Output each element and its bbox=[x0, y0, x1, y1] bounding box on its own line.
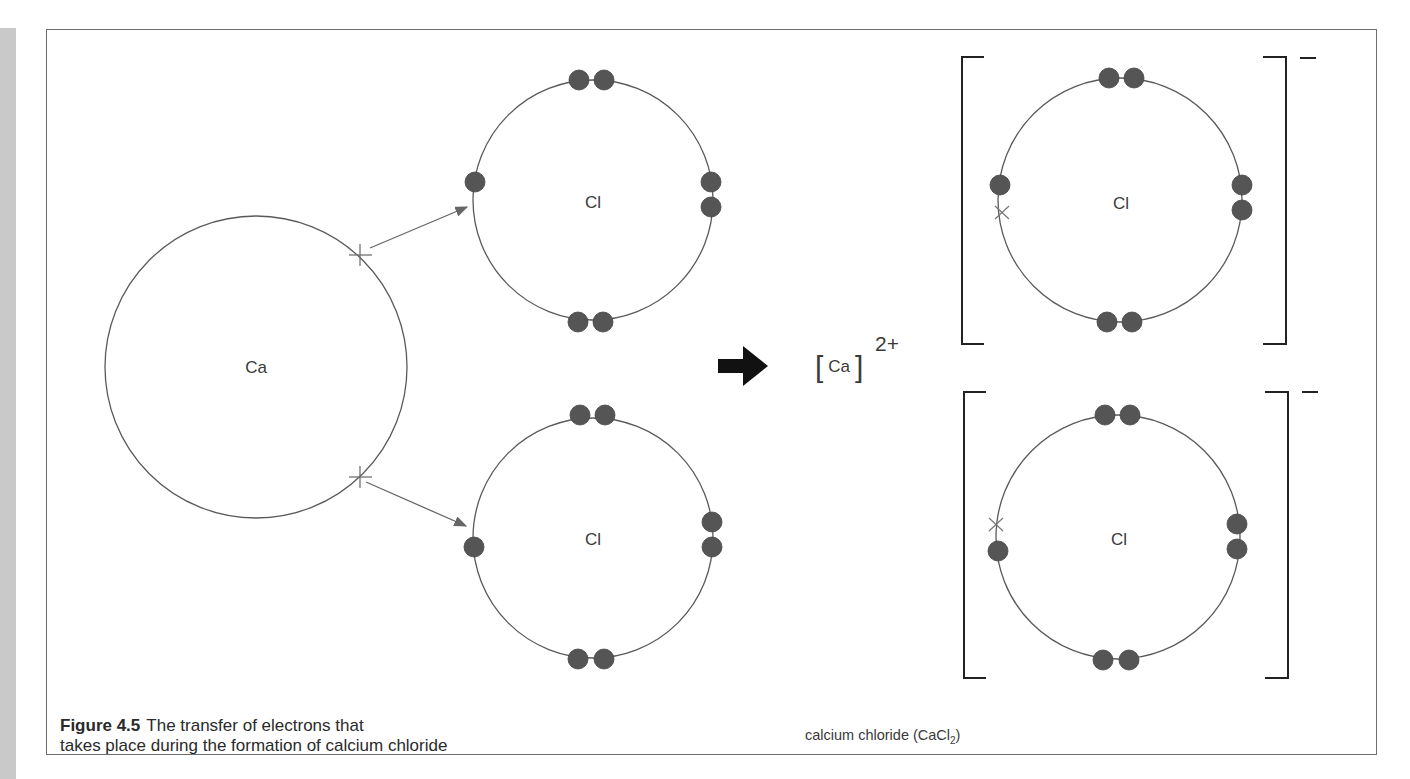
calcium-label: Ca bbox=[245, 358, 267, 378]
left-bracket: [ bbox=[815, 350, 823, 383]
cross-electron-icon bbox=[349, 466, 372, 488]
ionic-bonding-diagram bbox=[0, 0, 1410, 779]
calcium-ion-label: Ca bbox=[828, 357, 850, 376]
right-bracket: ] bbox=[855, 350, 863, 383]
figure-number: Figure 4.5 bbox=[60, 716, 140, 735]
transfer-arrow-top bbox=[370, 207, 467, 248]
product-name-text: calcium chloride (CaCl bbox=[805, 727, 950, 743]
x-electron-icon bbox=[995, 206, 1009, 219]
chlorine-bottom-label: Cl bbox=[585, 530, 601, 550]
chlorine-top-label: Cl bbox=[585, 193, 601, 213]
calcium-ion-charge: 2+ bbox=[875, 332, 899, 356]
reaction-arrow-icon bbox=[718, 346, 768, 386]
cross-electron-icon bbox=[349, 244, 372, 266]
chloride-ion-top bbox=[962, 57, 1316, 344]
product-name-label: calcium chloride (CaCl2) bbox=[805, 727, 960, 746]
product-name-close: ) bbox=[956, 727, 961, 743]
caption-line-1: The transfer of electrons that bbox=[146, 716, 363, 735]
caption-line-2: takes place during the formation of calc… bbox=[60, 736, 447, 756]
figure-caption: Figure 4.5The transfer of electrons that… bbox=[60, 716, 447, 756]
calcium-ion: [Ca] 2+ bbox=[815, 350, 863, 384]
transfer-arrow-bottom bbox=[366, 482, 466, 526]
chloride-bottom-label: Cl bbox=[1111, 530, 1127, 550]
chloride-top-label: Cl bbox=[1113, 194, 1129, 214]
chloride-ion-bottom bbox=[964, 392, 1318, 678]
